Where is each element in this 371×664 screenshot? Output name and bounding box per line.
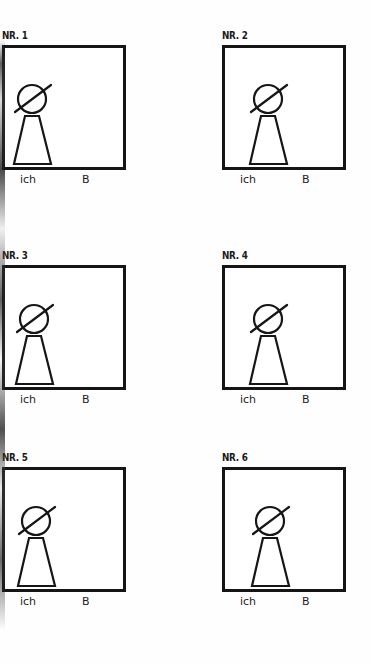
panel-2-figure [247, 77, 299, 167]
panel-5-figure [15, 499, 67, 589]
panel-5-number-label: NR. 5 [2, 452, 134, 464]
panel-3-number-label: NR. 3 [2, 250, 134, 262]
panel-3-caption-right: B [82, 393, 90, 407]
panel-5[interactable]: NR. 5 ich B [2, 452, 152, 612]
panel-4-figure [247, 297, 299, 387]
panel-5-box[interactable] [2, 467, 126, 592]
panel-2[interactable]: NR. 2 ich B [222, 30, 371, 190]
panel-3-box[interactable] [2, 265, 126, 390]
panel-6[interactable]: NR. 6 ich B [222, 452, 371, 612]
panel-3-caption: ich B [2, 390, 126, 410]
panel-5-caption: ich B [2, 592, 126, 612]
panel-1-box[interactable] [2, 45, 126, 170]
panel-4-box[interactable] [222, 265, 346, 390]
panel-4-caption: ich B [222, 390, 346, 410]
panel-6-number-label: NR. 6 [222, 452, 354, 464]
panel-6-caption-right: B [302, 595, 310, 609]
panel-2-box[interactable] [222, 45, 346, 170]
worksheet-sheet: NR. 1 ich B NR. 2 [0, 0, 371, 664]
panel-6-caption: ich B [222, 592, 346, 612]
panel-6-box[interactable] [222, 467, 346, 592]
panel-4-caption-right: B [302, 393, 310, 407]
panel-4[interactable]: NR. 4 ich B [222, 250, 371, 410]
panel-6-figure [249, 499, 301, 589]
panel-1-number-label: NR. 1 [2, 30, 134, 42]
panel-2-caption: ich B [222, 170, 346, 190]
panel-5-caption-left: ich [20, 595, 36, 609]
panel-5-caption-right: B [82, 595, 90, 609]
panel-1-caption-right: B [82, 173, 90, 187]
panel-1[interactable]: NR. 1 ich B [2, 30, 152, 190]
panel-1-caption-left: ich [20, 173, 36, 187]
panel-1-caption: ich B [2, 170, 126, 190]
panel-6-caption-left: ich [240, 595, 256, 609]
panel-2-caption-left: ich [240, 173, 256, 187]
panel-3-figure [13, 297, 65, 387]
panel-3-caption-left: ich [20, 393, 36, 407]
panel-2-number-label: NR. 2 [222, 30, 354, 42]
panel-3[interactable]: NR. 3 ich B [2, 250, 152, 410]
panel-4-number-label: NR. 4 [222, 250, 354, 262]
panel-4-caption-left: ich [240, 393, 256, 407]
panel-1-figure [11, 77, 63, 167]
panel-2-caption-right: B [302, 173, 310, 187]
